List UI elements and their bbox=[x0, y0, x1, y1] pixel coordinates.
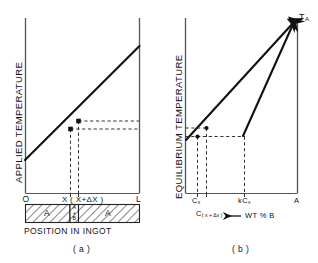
c-x-plus-dx-sub: ( x + Δx ) bbox=[202, 212, 223, 218]
apex-label-sub: A bbox=[305, 16, 309, 22]
ingot-middle-line-3: B bbox=[73, 216, 77, 221]
x-tick-c-x-plus-dx: C( x + Δx ) bbox=[196, 209, 222, 218]
panel-b-construction-lines bbox=[186, 128, 246, 193]
caption-b: ( b ) bbox=[232, 244, 249, 254]
panel-b-y-axis-label: EQUILIBRIUM TEMPERATURE bbox=[173, 54, 184, 199]
x-tick-x-plus-dx: ( X+ΔX ) bbox=[70, 195, 104, 204]
panel-b-axes bbox=[186, 18, 298, 194]
kc-x-base: kC bbox=[238, 196, 248, 205]
kc-x-sub: x bbox=[248, 200, 250, 205]
figure-vector-layer bbox=[0, 0, 318, 263]
x-tick-kc-x: kCx bbox=[238, 196, 250, 205]
applied-temperature-line bbox=[25, 46, 140, 160]
ingot-segment-right-label: A bbox=[105, 208, 111, 218]
x-tick-c-x: Cx bbox=[192, 196, 200, 205]
solidus-line bbox=[243, 22, 294, 136]
x-tick-pure-a: A bbox=[294, 196, 299, 205]
wt-percent-b-label: WT % B bbox=[245, 211, 275, 220]
caption-a: ( a ) bbox=[73, 244, 90, 254]
liquidus-line bbox=[186, 22, 294, 140]
figure-container: APPLIED TEMPERATURE O X ( X+ΔX ) L A A +… bbox=[0, 0, 318, 263]
x-tick-length: L bbox=[136, 194, 141, 204]
panel-a-construction-lines bbox=[71, 121, 140, 193]
panel-a-axes bbox=[26, 18, 140, 194]
panel-a-x-axis-label: POSITION IN INGOT bbox=[24, 226, 112, 236]
ingot-segment-middle-label: A + B bbox=[71, 205, 78, 223]
apex-temperature-label: TA bbox=[299, 12, 309, 22]
marker-c-x-plus-dx bbox=[204, 126, 208, 130]
c-x-sub: x bbox=[198, 200, 200, 205]
panel-a-y-axis-label: APPLIED TEMPERATURE bbox=[13, 62, 24, 183]
marker-c-x bbox=[195, 134, 199, 138]
x-tick-x: X bbox=[62, 195, 68, 204]
ingot-bar bbox=[26, 205, 140, 223]
x-tick-origin: O bbox=[23, 194, 30, 204]
ingot-segment-left-label: A bbox=[44, 208, 50, 218]
marker-point-x-plus-dx bbox=[76, 119, 81, 124]
marker-point-x bbox=[68, 127, 73, 132]
